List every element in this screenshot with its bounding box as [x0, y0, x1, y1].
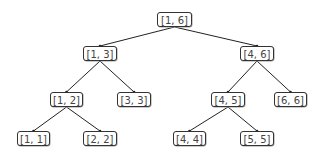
tree-node: [1, 6]: [157, 12, 192, 27]
tree-node: [1, 3]: [83, 46, 117, 61]
tree-edge: [228, 107, 257, 131]
tree-edge: [34, 107, 67, 131]
tree-node: [1, 2]: [50, 92, 83, 107]
tree-node: [4, 4]: [173, 131, 206, 146]
tree-node: [5, 5]: [240, 131, 274, 146]
tree-edge: [228, 61, 257, 92]
tree-edge: [67, 107, 101, 131]
tree-edge: [67, 61, 101, 92]
tree-node: [1, 1]: [17, 131, 50, 146]
tree-edge: [175, 27, 258, 46]
tree-edge: [100, 61, 134, 92]
tree-node: [6, 6]: [274, 92, 307, 107]
tree-edge: [257, 61, 291, 92]
tree-edge: [100, 27, 175, 46]
tree-node: [2, 2]: [83, 131, 117, 146]
tree-edge: [190, 107, 229, 131]
segment-tree-diagram: [1, 6][1, 3][4, 6][1, 2][3, 3][4, 5][6, …: [0, 0, 321, 163]
tree-node: [4, 5]: [211, 92, 245, 107]
tree-node: [3, 3]: [117, 92, 151, 107]
tree-node: [4, 6]: [240, 46, 274, 61]
